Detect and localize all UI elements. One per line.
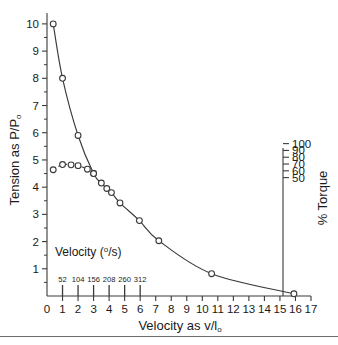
x-tick-label-16: 16 [289, 303, 302, 315]
torque-point [84, 166, 90, 172]
tension-point [60, 75, 66, 81]
y-tick-label-4: 4 [33, 181, 40, 193]
x-tick-label-6: 6 [137, 303, 143, 315]
x-tick-label-1: 1 [59, 303, 65, 315]
x-tick-label-8: 8 [168, 303, 174, 315]
x-tick-label-7: 7 [153, 303, 159, 315]
x-axis-major-ticks [63, 296, 311, 301]
tension-point [91, 171, 97, 177]
x-axis-inner-velocity-ticks [63, 285, 141, 296]
y-tick-label-7: 7 [33, 100, 39, 112]
y-tick-label-6: 6 [33, 127, 39, 139]
x-axis-inner-velocity-labels: 52104156208260312 [58, 275, 146, 284]
tension-point [98, 180, 104, 186]
chart-canvas: 12345678910 01234567891011121314151617 5… [0, 0, 338, 345]
x-tick-label-10: 10 [196, 303, 209, 315]
inner-velocity-title: Velocity (o/s) [55, 245, 121, 259]
x-tick-label-13: 13 [242, 303, 255, 315]
x-axis-tick-labels: 01234567891011121314151617 [44, 303, 318, 315]
y-tick-label-10: 10 [26, 18, 39, 30]
x-tick-label-9: 9 [184, 303, 190, 315]
y-axis-tick-labels: 12345678910 [26, 18, 39, 275]
inner-tick-label-312: 312 [134, 275, 147, 284]
x-tick-label-2: 2 [75, 303, 81, 315]
y-axis-title: Tension as P/Po [7, 114, 23, 206]
inner-tick-label-208: 208 [103, 275, 116, 284]
right-tick-label-100: 100 [292, 138, 311, 150]
tension-point [117, 200, 123, 206]
x-tick-label-11: 11 [212, 303, 224, 315]
inner-tick-label-104: 104 [72, 275, 85, 284]
x-tick-label-14: 14 [258, 303, 271, 315]
y-axis-right-tick-labels: 5060708090100 [292, 138, 311, 184]
x-axis-title: Velocity as v/lo [138, 318, 222, 334]
x-tick-label-17: 17 [305, 303, 318, 315]
tension-point [291, 291, 297, 297]
bottom-divider-rule [0, 336, 338, 337]
x-tick-label-15: 15 [274, 303, 287, 315]
torque-point [50, 167, 56, 173]
y-axis-right-ticks [283, 144, 289, 178]
inner-tick-label-156: 156 [87, 275, 100, 284]
tension-point [75, 133, 81, 139]
torque-point [60, 162, 66, 168]
x-tick-label-3: 3 [90, 303, 96, 315]
tension-point [156, 238, 162, 244]
y-tick-label-5: 5 [33, 154, 39, 166]
y-axis-right-title: % Torque [315, 171, 330, 226]
tension-point [209, 271, 215, 277]
force-velocity-figure: 12345678910 01234567891011121314151617 5… [0, 0, 338, 345]
x-tick-label-5: 5 [121, 303, 127, 315]
inner-tick-label-260: 260 [118, 275, 131, 284]
y-tick-label-2: 2 [33, 236, 39, 248]
inner-tick-label-52: 52 [58, 275, 66, 284]
tension-point [109, 190, 115, 196]
tension-point [50, 21, 56, 27]
y-tick-label-9: 9 [33, 45, 39, 57]
x-tick-label-4: 4 [106, 303, 113, 315]
y-tick-label-8: 8 [33, 72, 39, 84]
x-tick-label-0: 0 [44, 303, 50, 315]
y-tick-label-3: 3 [33, 208, 39, 220]
torque-point [68, 162, 74, 168]
tension-point [137, 218, 143, 224]
x-tick-label-12: 12 [227, 303, 240, 315]
y-tick-label-1: 1 [33, 263, 39, 275]
torque-point [75, 163, 81, 169]
